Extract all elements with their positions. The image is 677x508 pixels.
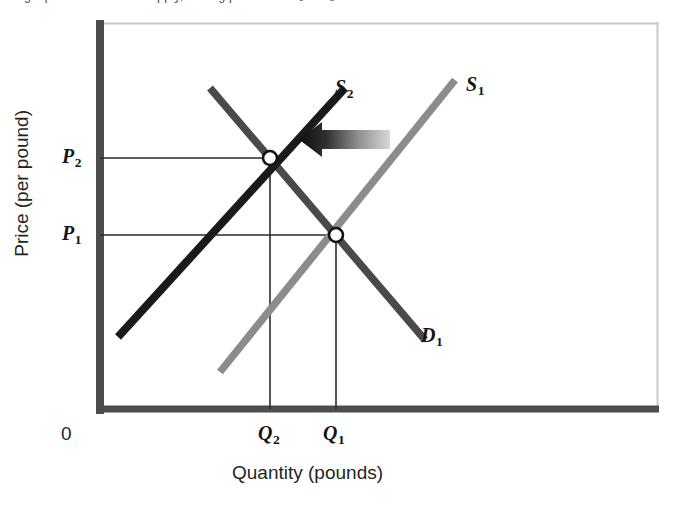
y-axis-title: Price (per pound) xyxy=(12,110,31,257)
equilibrium-point-original xyxy=(329,228,343,242)
curve-label-sub-s2: 2 xyxy=(347,86,354,101)
price-tick-sub-p2: 2 xyxy=(75,155,82,170)
price-tick-label-p1: P1 xyxy=(62,223,81,243)
curve-label-sub-d1: 1 xyxy=(436,334,443,349)
equilibrium-point-new xyxy=(263,151,277,165)
price-tick-sub-p1: 1 xyxy=(75,232,82,247)
price-tick-label-p2: P2 xyxy=(62,146,81,166)
curve-label-sub-s1: 1 xyxy=(478,83,485,98)
quantity-tick-base-q1: Q xyxy=(323,422,337,444)
plot-background xyxy=(96,22,659,412)
curve-label-base-s2: S xyxy=(335,76,346,98)
quantity-tick-base-q2: Q xyxy=(258,422,272,444)
curve-label-base-s1: S xyxy=(466,73,477,95)
quantity-tick-sub-q2: 2 xyxy=(273,432,280,447)
supply-demand-figure: rising input costs reduce supply, raisin… xyxy=(0,0,677,508)
quantity-tick-label-q1: Q1 xyxy=(323,423,344,443)
price-tick-base-p2: P xyxy=(62,145,74,167)
curve-label-s1: S1 xyxy=(466,74,484,94)
curve-label-s2: S2 xyxy=(335,77,353,97)
origin-label: 0 xyxy=(61,424,72,443)
curve-label-base-d1: D xyxy=(421,324,435,346)
x-axis-title: Quantity (pounds) xyxy=(232,463,383,482)
quantity-tick-sub-q1: 1 xyxy=(338,432,345,447)
curve-label-d1: D1 xyxy=(421,325,442,345)
price-tick-base-p1: P xyxy=(62,222,74,244)
quantity-tick-label-q2: Q2 xyxy=(258,423,279,443)
